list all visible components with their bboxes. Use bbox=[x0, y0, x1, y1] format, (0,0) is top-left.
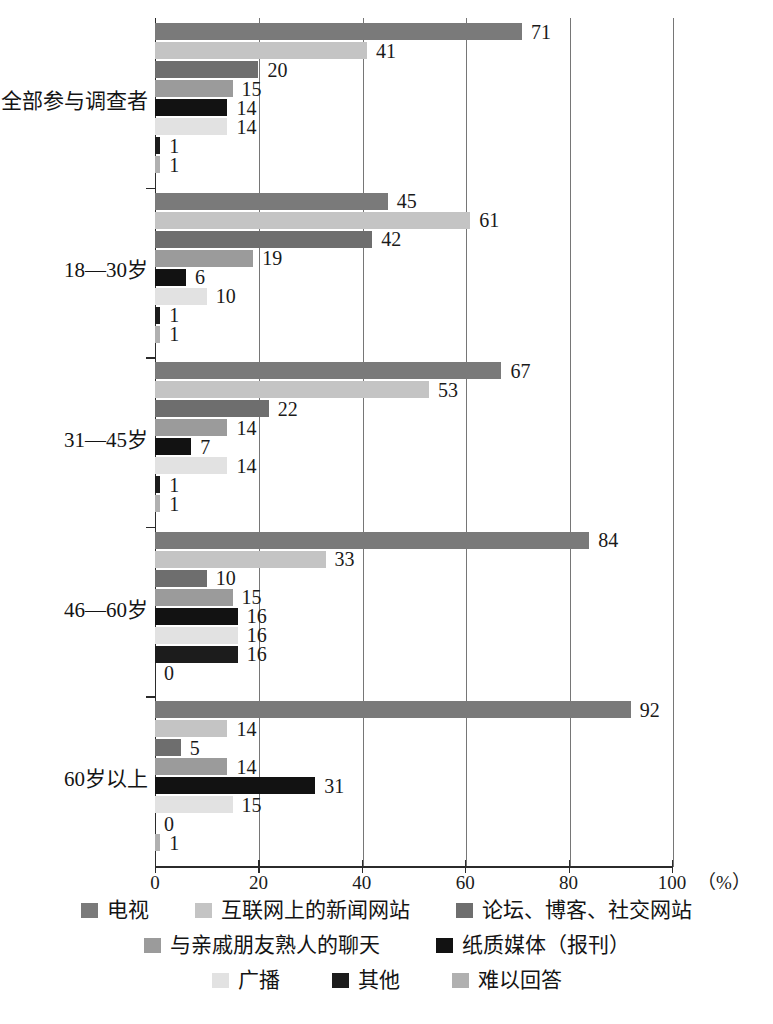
bar-value-label: 5 bbox=[190, 738, 200, 758]
legend-swatch-icon bbox=[436, 938, 453, 953]
bar bbox=[155, 381, 429, 398]
bar bbox=[155, 457, 227, 474]
bar-value-label: 14 bbox=[236, 757, 256, 777]
legend-item-8[interactable]: 难以回答 bbox=[452, 969, 562, 992]
legend-label: 互联网上的新闻网站 bbox=[221, 899, 410, 922]
gridline-80 bbox=[570, 18, 571, 867]
bar-value-label: 1 bbox=[169, 155, 179, 175]
bar-value-label: 0 bbox=[164, 663, 174, 683]
x-axis-line bbox=[155, 866, 673, 868]
category-label-2: 18—30岁 bbox=[64, 258, 148, 282]
bar-value-label: 33 bbox=[335, 549, 355, 569]
x-axis-unit-label: （%） bbox=[697, 872, 751, 894]
bar-value-label: 14 bbox=[236, 456, 256, 476]
bar-value-label: 1 bbox=[169, 475, 179, 495]
legend-label: 与亲戚朋友熟人的聊天 bbox=[170, 934, 380, 957]
bar-value-label: 22 bbox=[278, 399, 298, 419]
bar-value-label: 1 bbox=[169, 305, 179, 325]
legend-label: 其他 bbox=[358, 969, 400, 992]
legend-label: 纸质媒体（报刊） bbox=[462, 934, 630, 957]
bar-value-label: 15 bbox=[242, 79, 262, 99]
bar-value-label: 14 bbox=[236, 418, 256, 438]
legend-item-4[interactable]: 与亲戚朋友熟人的聊天 bbox=[144, 934, 380, 957]
legend-swatch-icon bbox=[81, 903, 98, 918]
legend-label: 广播 bbox=[238, 969, 280, 992]
x-tick-label-80: 80 bbox=[559, 872, 578, 894]
bar bbox=[155, 570, 207, 587]
legend-swatch-icon bbox=[452, 973, 469, 988]
bar-value-label: 7 bbox=[200, 437, 210, 457]
bar-value-label: 61 bbox=[479, 210, 499, 230]
bar bbox=[155, 777, 315, 794]
bar bbox=[155, 608, 238, 625]
x-tick-label-0: 0 bbox=[150, 872, 160, 894]
bar-value-label: 14 bbox=[236, 719, 256, 739]
legend-label: 难以回答 bbox=[478, 969, 562, 992]
legend-row-1: 电视互联网上的新闻网站论坛、博客、社交网站 bbox=[0, 893, 773, 928]
category-label-1: 全部参与调查者 bbox=[1, 89, 148, 113]
legend-item-6[interactable]: 广播 bbox=[212, 969, 280, 992]
gridline-100 bbox=[673, 18, 674, 867]
bar-value-label: 6 bbox=[195, 267, 205, 287]
gridline-60 bbox=[466, 18, 467, 867]
legend-item-1[interactable]: 电视 bbox=[81, 899, 149, 922]
x-tick-label-40: 40 bbox=[352, 872, 371, 894]
bar bbox=[155, 42, 367, 59]
bar-value-label: 53 bbox=[438, 380, 458, 400]
bar-value-label: 1 bbox=[169, 833, 179, 853]
legend-swatch-icon bbox=[144, 938, 161, 953]
legend-row-3: 广播其他难以回答 bbox=[0, 963, 773, 998]
bar bbox=[155, 118, 227, 135]
bar-value-label: 42 bbox=[381, 229, 401, 249]
bar bbox=[155, 495, 160, 512]
bar-value-label: 1 bbox=[169, 494, 179, 514]
bar bbox=[155, 532, 589, 549]
bar bbox=[155, 61, 258, 78]
bar-value-label: 19 bbox=[262, 248, 282, 268]
x-tick-label-60: 60 bbox=[456, 872, 475, 894]
bar bbox=[155, 156, 160, 173]
category-label-3: 31—45岁 bbox=[64, 428, 148, 452]
y-tick-3 bbox=[146, 527, 156, 528]
bar bbox=[155, 589, 233, 606]
gridline-40 bbox=[363, 18, 364, 867]
bar bbox=[155, 193, 388, 210]
legend-swatch-icon bbox=[332, 973, 349, 988]
y-tick-1 bbox=[146, 188, 156, 189]
bar bbox=[155, 720, 227, 737]
bar-chart-figure: 020406080100 全部参与调查者18—30岁31—45岁46—60岁60… bbox=[0, 0, 773, 1024]
bar bbox=[155, 99, 227, 116]
gridline-20 bbox=[259, 18, 260, 867]
chart-legend: 电视互联网上的新闻网站论坛、博客、社交网站 与亲戚朋友熟人的聊天纸质媒体（报刊）… bbox=[0, 893, 773, 998]
bar-value-label: 0 bbox=[164, 814, 174, 834]
bar-value-label: 10 bbox=[216, 568, 236, 588]
bar-value-label: 15 bbox=[242, 795, 262, 815]
bar bbox=[155, 627, 238, 644]
legend-item-7[interactable]: 其他 bbox=[332, 969, 400, 992]
legend-swatch-icon bbox=[212, 973, 229, 988]
y-tick-4 bbox=[146, 696, 156, 697]
bar bbox=[155, 250, 253, 267]
bar bbox=[155, 231, 372, 248]
legend-swatch-icon bbox=[195, 903, 212, 918]
legend-label: 论坛、博客、社交网站 bbox=[482, 899, 692, 922]
bar-value-label: 15 bbox=[242, 587, 262, 607]
legend-label: 电视 bbox=[107, 899, 149, 922]
x-tick-label-20: 20 bbox=[249, 872, 268, 894]
bar bbox=[155, 288, 207, 305]
bar bbox=[155, 326, 160, 343]
bar-value-label: 45 bbox=[397, 191, 417, 211]
legend-swatch-icon bbox=[456, 903, 473, 918]
bar bbox=[155, 796, 233, 813]
bar-value-label: 14 bbox=[236, 117, 256, 137]
bar bbox=[155, 307, 160, 324]
bar-value-label: 84 bbox=[598, 530, 618, 550]
legend-item-3[interactable]: 论坛、博客、社交网站 bbox=[456, 899, 692, 922]
category-label-4: 46—60岁 bbox=[64, 598, 148, 622]
legend-item-2[interactable]: 互联网上的新闻网站 bbox=[195, 899, 410, 922]
bar bbox=[155, 438, 191, 455]
bar bbox=[155, 419, 227, 436]
bar bbox=[155, 362, 501, 379]
legend-item-5[interactable]: 纸质媒体（报刊） bbox=[436, 934, 630, 957]
bar bbox=[155, 701, 631, 718]
